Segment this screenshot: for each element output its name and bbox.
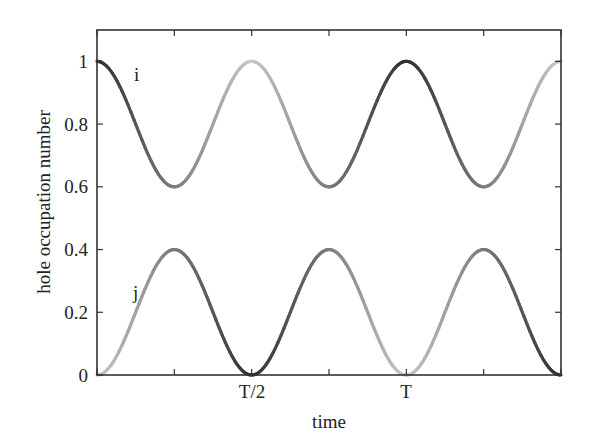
curve-label-i: i xyxy=(134,64,139,85)
y-tick-0.8: 0.8 xyxy=(64,114,88,135)
y-tick-1: 1 xyxy=(79,51,89,72)
y-axis-tick-labels: 0 0.2 0.4 0.6 0.8 1 xyxy=(64,51,88,386)
x-axis-tick-labels: T/2 T xyxy=(239,381,412,402)
y-tick-0.4: 0.4 xyxy=(64,239,88,260)
y-tick-0.2: 0.2 xyxy=(64,302,88,323)
chart-canvas: 0 0.2 0.4 0.6 0.8 1 T/2 T time hole occu… xyxy=(0,0,589,446)
curve-j xyxy=(97,250,561,375)
y-tick-0: 0 xyxy=(79,365,89,386)
x-tick-half-period: T/2 xyxy=(239,381,265,402)
curve-label-j: j xyxy=(132,282,138,303)
axis-ticks xyxy=(97,30,561,375)
y-tick-0.6: 0.6 xyxy=(64,176,88,197)
y-axis-title: hole occupation number xyxy=(33,110,54,294)
plot-curves xyxy=(97,61,561,375)
plot-frame xyxy=(97,30,561,375)
curve-i xyxy=(97,61,561,186)
x-tick-period: T xyxy=(400,381,412,402)
x-axis-title: time xyxy=(312,411,346,432)
